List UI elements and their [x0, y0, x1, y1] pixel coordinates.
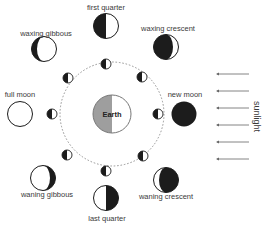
- phase-first-quarter: first quarter: [87, 3, 125, 39]
- orbital-moon-bottom: [101, 166, 111, 176]
- phase-waning-gibbous: waning gibbous: [20, 166, 73, 200]
- phase-label: first quarter: [87, 3, 125, 12]
- orbital-moon-upper-left: [63, 73, 73, 83]
- earth-label: Earth: [102, 110, 122, 119]
- orbital-moon-top: [101, 59, 111, 69]
- orbital-moon-right: [153, 109, 163, 119]
- sunlight-label: sunlight: [252, 101, 262, 133]
- phase-full-moon: full moon: [5, 90, 35, 127]
- phase-waning-crescent: waning crescent: [138, 168, 194, 202]
- orbital-moon-left: [47, 109, 57, 119]
- phase-label: waning gibbous: [20, 190, 73, 199]
- phase-waxing-crescent: waxing crescent: [140, 24, 196, 60]
- moon-phases-diagram: Earth: [0, 0, 265, 227]
- phase-label: full moon: [5, 90, 35, 99]
- phase-last-quarter: last quarter: [88, 186, 126, 224]
- arrow-left-icon: [216, 141, 249, 144]
- phase-waxing-gibbous: waxing gibbous: [19, 29, 72, 62]
- phase-label: waxing crescent: [140, 24, 196, 33]
- sunlight-arrows: [216, 73, 249, 161]
- earth: Earth: [93, 95, 131, 133]
- orbital-moon-lower-right: [138, 151, 148, 161]
- arrow-left-icon: [216, 158, 249, 161]
- phase-label: new moon: [168, 90, 203, 99]
- orbital-moon-lower-left: [62, 150, 72, 160]
- arrow-left-icon: [216, 73, 249, 76]
- phase-label: waning crescent: [138, 192, 194, 201]
- phase-new-moon: new moon: [168, 90, 203, 127]
- arrow-left-icon: [216, 124, 249, 127]
- arrow-left-icon: [216, 107, 249, 110]
- orbital-moon-upper-right: [137, 72, 147, 82]
- arrow-left-icon: [216, 90, 249, 93]
- phase-label: last quarter: [88, 214, 126, 223]
- phase-label: waxing gibbous: [19, 29, 72, 38]
